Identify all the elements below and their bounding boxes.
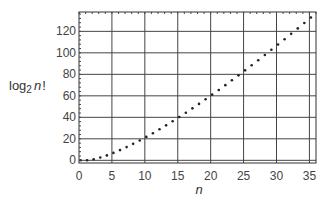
- data-point: [86, 159, 89, 162]
- y-tick-label: 40: [63, 110, 77, 124]
- data-point: [204, 98, 207, 101]
- data-point: [178, 116, 181, 119]
- data-point: [198, 103, 201, 106]
- y-tick-label: 60: [63, 89, 77, 103]
- x-axis-label: n: [195, 182, 202, 197]
- data-point: [145, 136, 148, 139]
- data-point: [138, 139, 141, 142]
- data-point: [132, 143, 135, 146]
- data-point: [277, 43, 280, 46]
- x-tick-label: 10: [138, 169, 152, 183]
- x-tick-label: 0: [76, 169, 83, 183]
- data-point: [191, 107, 194, 110]
- y-axis-label: log2n!: [9, 78, 46, 95]
- minor-ticks: [79, 12, 316, 160]
- data-point: [290, 33, 293, 36]
- x-tick-label: 5: [109, 169, 116, 183]
- data-point: [303, 22, 306, 25]
- y-label-bang: !: [42, 78, 46, 93]
- data-point: [264, 54, 267, 57]
- y-tick-labels: 020406080100120: [56, 24, 76, 167]
- data-point: [237, 74, 240, 77]
- data-point: [165, 124, 168, 127]
- x-tick-label: 25: [237, 169, 251, 183]
- x-tick-label: 20: [204, 169, 218, 183]
- data-point: [99, 156, 102, 159]
- data-point: [92, 158, 95, 161]
- data-point: [217, 89, 220, 92]
- x-tick-label: 30: [270, 169, 284, 183]
- y-tick-label: 0: [69, 153, 76, 167]
- data-point: [224, 84, 227, 87]
- y-tick-label: 100: [56, 46, 76, 60]
- grid-lines: [79, 12, 316, 163]
- x-tick-labels: 05101520253035: [76, 169, 317, 183]
- y-tick-label: 80: [63, 67, 77, 81]
- data-point: [171, 120, 174, 123]
- data-point: [250, 64, 253, 67]
- data-point: [152, 132, 155, 135]
- data-point: [257, 59, 260, 62]
- y-label-log: log: [9, 78, 26, 93]
- data-point: [211, 93, 214, 96]
- x-tick-label: 35: [303, 169, 317, 183]
- y-tick-label: 20: [63, 132, 77, 146]
- data-point: [125, 146, 128, 149]
- data-point: [283, 38, 286, 41]
- data-point: [244, 69, 247, 72]
- x-tick-label: 15: [171, 169, 185, 183]
- data-point: [296, 27, 299, 30]
- data-point: [158, 128, 161, 131]
- y-label-var: n: [34, 78, 41, 93]
- data-point: [119, 149, 122, 152]
- data-point: [185, 111, 188, 114]
- data-point: [270, 49, 273, 52]
- y-tick-label: 120: [56, 24, 76, 38]
- data-point: [106, 154, 109, 157]
- data-points: [79, 16, 312, 161]
- data-point: [231, 79, 234, 82]
- data-point: [310, 16, 313, 19]
- y-label-sub: 2: [26, 84, 32, 95]
- plot-frame: [79, 12, 316, 163]
- chart: 05101520253035 020406080100120 n log2n!: [0, 0, 328, 206]
- data-point: [112, 152, 115, 155]
